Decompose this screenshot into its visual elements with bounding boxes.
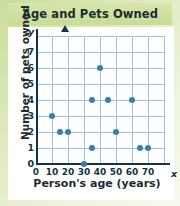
x-axis-line [36, 163, 170, 165]
page-title: Age and Pets Owned [22, 7, 158, 21]
gridline-horizontal [36, 116, 164, 117]
y-tick-label: 3 [22, 111, 34, 121]
scatter-point [105, 97, 111, 103]
scatter-point [97, 65, 103, 71]
y-axis-line [36, 29, 38, 165]
y-axis-arrow-icon [61, 25, 69, 32]
gridline-vertical [164, 36, 165, 164]
x-tick-label: 70 [138, 168, 158, 177]
scatter-point [65, 129, 71, 135]
scatter-point [129, 97, 135, 103]
y-tick-label: 5 [22, 79, 34, 89]
plot-card: Number of pets owned Person's age (years… [8, 27, 174, 200]
chart-figure: Age and Pets Owned Number of pets owned … [0, 0, 180, 206]
chart-title-band: Age and Pets Owned [8, 3, 172, 25]
scatter-point [113, 129, 119, 135]
gridline-horizontal [36, 132, 164, 133]
scatter-point [89, 145, 95, 151]
scatter-point [137, 145, 143, 151]
gridline-vertical [116, 36, 117, 164]
y-tick-label: 2 [22, 127, 34, 137]
scatter-point [89, 97, 95, 103]
y-tick-label: 6 [22, 63, 34, 73]
y-axis-ticks: 01234567 [18, 27, 34, 187]
scatter-point [145, 145, 151, 151]
y-tick-label: 7 [22, 47, 34, 57]
y-tick-label: 1 [22, 143, 34, 153]
scatter-point [81, 161, 87, 167]
scatter-point [49, 113, 55, 119]
gridline-horizontal [36, 100, 164, 101]
scatter-point [57, 129, 63, 135]
x-axis-ticks: 010203040506070 [36, 168, 180, 182]
y-tick-label: 4 [22, 95, 34, 105]
plot-grid [36, 36, 164, 164]
